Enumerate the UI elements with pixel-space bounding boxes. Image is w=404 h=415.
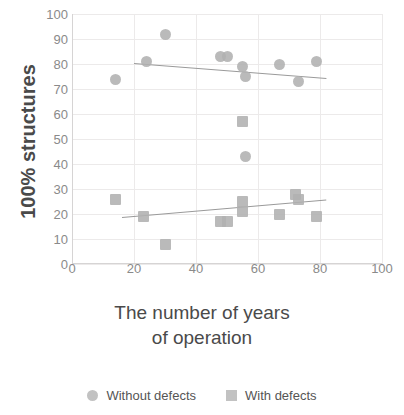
y-axis-tick-label: 50: [34, 133, 68, 146]
y-axis-tick-label: 60: [34, 108, 68, 121]
x-axis-title-line2: of operation: [0, 325, 404, 350]
chart-legend: Without defectsWith defects: [0, 388, 404, 403]
data-point-circle: [293, 76, 304, 87]
y-axis-tick-label: 70: [34, 83, 68, 96]
legend-label: With defects: [245, 388, 317, 403]
legend-circle-marker-icon: [87, 390, 98, 401]
gridline-vertical: [196, 14, 197, 264]
data-point-square: [311, 211, 322, 222]
data-point-square: [160, 239, 171, 250]
x-axis-tick-label: 0: [52, 262, 92, 275]
legend-square-marker-icon: [226, 390, 237, 401]
y-axis-tick-label: 20: [34, 208, 68, 221]
scatter-chart-figure: 100% structures 0102030405060708090100 0…: [0, 0, 404, 415]
data-point-square: [110, 194, 121, 205]
data-point-circle: [274, 59, 285, 70]
data-point-square: [237, 116, 248, 127]
y-axis-tick-label: 90: [34, 33, 68, 46]
data-point-square: [237, 206, 248, 217]
legend-entry-2[interactable]: With defects: [226, 388, 317, 403]
gridline-vertical: [134, 14, 135, 264]
x-axis-tick-label: 60: [238, 262, 278, 275]
gridline-horizontal: [72, 64, 382, 65]
legend-label: Without defects: [106, 388, 196, 403]
gridline-vertical: [382, 14, 383, 264]
gridline-vertical: [258, 14, 259, 264]
x-axis-title: The number of years of operation: [0, 300, 404, 350]
data-point-circle: [222, 51, 233, 62]
data-point-circle: [240, 71, 251, 82]
gridline-horizontal: [72, 189, 382, 190]
data-point-square: [222, 216, 233, 227]
x-axis-tick-label: 20: [114, 262, 154, 275]
data-point-circle: [110, 74, 121, 85]
data-point-square: [274, 209, 285, 220]
gridline-horizontal: [72, 89, 382, 90]
y-axis-tick-label: 80: [34, 58, 68, 71]
data-point-square: [138, 211, 149, 222]
x-axis-tick-label: 100: [362, 262, 402, 275]
gridline-horizontal: [72, 114, 382, 115]
y-axis-tick-label: 30: [34, 183, 68, 196]
data-point-square: [293, 194, 304, 205]
x-axis-tick-label: 80: [300, 262, 340, 275]
gridline-horizontal: [72, 239, 382, 240]
y-axis-tick-label: 40: [34, 158, 68, 171]
gridline-horizontal: [72, 39, 382, 40]
y-axis-tick-label: 10: [34, 233, 68, 246]
gridline-horizontal: [72, 14, 382, 15]
data-point-circle: [240, 151, 251, 162]
gridline-vertical: [320, 14, 321, 264]
y-axis-tick-label: 100: [34, 8, 68, 21]
x-axis-title-line1: The number of years: [0, 300, 404, 325]
gridline-horizontal: [72, 214, 382, 215]
plot-area: [72, 14, 382, 264]
gridline-horizontal: [72, 139, 382, 140]
data-point-circle: [160, 29, 171, 40]
x-axis-tick-label: 40: [176, 262, 216, 275]
gridline-horizontal: [72, 164, 382, 165]
y-axis-line: [72, 14, 73, 264]
data-point-circle: [141, 56, 152, 67]
legend-entry-1[interactable]: Without defects: [87, 388, 196, 403]
